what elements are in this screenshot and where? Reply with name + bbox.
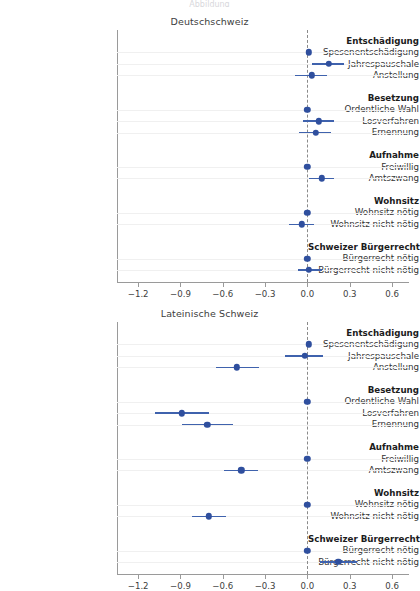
- gridline: [117, 270, 409, 271]
- group-label: Schweizer Bürgerrecht: [308, 243, 419, 252]
- gridline: [117, 52, 409, 53]
- gridline: [117, 551, 409, 552]
- x-tick: [265, 283, 266, 287]
- gridline: [117, 213, 409, 214]
- x-tick-label: −1.2: [128, 581, 149, 591]
- group-label: Wohnsitz: [308, 489, 419, 498]
- gridline: [117, 64, 409, 65]
- x-tick: [138, 283, 139, 287]
- x-tick-label: −0.9: [170, 581, 191, 591]
- x-tick: [307, 575, 308, 579]
- x-axis-line: [117, 282, 409, 283]
- x-tick: [180, 575, 181, 579]
- gridline: [117, 425, 409, 426]
- zero-reference-line: [307, 30, 308, 282]
- x-tick: [307, 283, 308, 287]
- gridline: [117, 459, 409, 460]
- gridline: [117, 562, 409, 563]
- x-tick-label: 0.3: [343, 581, 357, 591]
- x-tick-label: −0.6: [212, 289, 233, 299]
- x-tick: [392, 283, 393, 287]
- gridline: [117, 344, 409, 345]
- group-label: Entschädigung: [308, 37, 419, 46]
- group-label: Entschädigung: [308, 329, 419, 338]
- x-tick-label: −0.6: [212, 581, 233, 591]
- gridline: [117, 178, 409, 179]
- group-label: Wohnsitz: [308, 197, 419, 206]
- panel-title: Lateinische Schweiz: [0, 308, 419, 319]
- gridline: [117, 224, 409, 225]
- x-tick-label: 0.3: [343, 289, 357, 299]
- group-label: Besetzung: [308, 386, 419, 395]
- gridline: [117, 167, 409, 168]
- x-tick: [265, 575, 266, 579]
- cropped-header-text: Abbildung: [0, 0, 419, 7]
- panel-title: Deutschschweiz: [0, 16, 419, 27]
- gridline: [117, 516, 409, 517]
- group-label: Schweizer Bürgerrecht: [308, 535, 419, 544]
- x-tick-label: −0.9: [170, 289, 191, 299]
- x-tick-label: 0.6: [385, 289, 399, 299]
- gridline: [117, 402, 409, 403]
- gridline: [117, 367, 409, 368]
- x-tick-label: 0.0: [301, 581, 315, 591]
- gridline: [117, 110, 409, 111]
- gridline: [117, 133, 409, 134]
- x-tick: [223, 283, 224, 287]
- gridline: [117, 121, 409, 122]
- x-tick-label: −0.3: [255, 581, 276, 591]
- x-tick-label: −1.2: [128, 289, 149, 299]
- zero-reference-line: [307, 322, 308, 574]
- x-tick: [138, 575, 139, 579]
- x-tick: [180, 283, 181, 287]
- x-axis-line: [117, 574, 409, 575]
- x-tick: [223, 575, 224, 579]
- gridline: [117, 505, 409, 506]
- x-tick: [392, 575, 393, 579]
- x-tick-label: 0.0: [301, 289, 315, 299]
- group-label: Besetzung: [308, 94, 419, 103]
- x-tick-label: −0.3: [255, 289, 276, 299]
- x-tick: [350, 575, 351, 579]
- gridline: [117, 259, 409, 260]
- x-tick: [350, 283, 351, 287]
- gridline: [117, 75, 409, 76]
- group-label: Aufnahme: [308, 151, 419, 160]
- group-label: Aufnahme: [308, 443, 419, 452]
- gridline: [117, 470, 409, 471]
- gridline: [117, 356, 409, 357]
- x-tick-label: 0.6: [385, 581, 399, 591]
